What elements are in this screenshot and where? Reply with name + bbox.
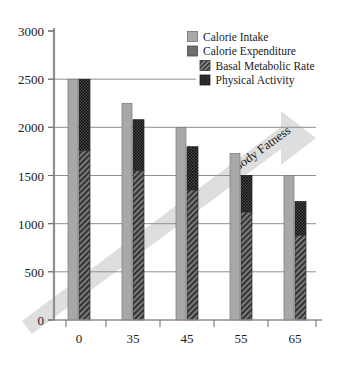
bar-physical-activity[interactable] (241, 176, 252, 213)
bar-basal-metabolic-rate[interactable] (241, 212, 252, 320)
legend-label: Calorie Intake (203, 31, 268, 43)
y-tick-label: 2500 (18, 72, 44, 87)
legend-swatch-basal-metabolic-rate-icon (200, 61, 210, 71)
bar-physical-activity[interactable] (133, 120, 144, 171)
bar-physical-activity[interactable] (79, 79, 90, 151)
y-tick-label: 1000 (18, 217, 44, 232)
y-tick-label: 0 (38, 313, 45, 328)
bar-calorie-intake[interactable] (68, 79, 78, 320)
x-tick-label: 35 (127, 331, 140, 346)
bar-chart-figure: Body Fatness (0, 0, 344, 366)
legend-label: Physical Activity (216, 74, 295, 87)
bar-basal-metabolic-rate[interactable] (187, 190, 198, 320)
y-tick-label: 3000 (18, 24, 44, 39)
y-tick-label: 500 (25, 265, 45, 280)
legend-swatch-physical-activity-icon (200, 75, 210, 85)
bar-group-35 (122, 103, 144, 320)
x-tick-label: 65 (289, 331, 302, 346)
x-tick-label: 45 (181, 331, 194, 346)
bar-basal-metabolic-rate[interactable] (79, 151, 90, 320)
bar-basal-metabolic-rate[interactable] (295, 235, 306, 320)
bar-calorie-intake[interactable] (176, 127, 186, 320)
y-tick-label: 1500 (18, 169, 44, 184)
y-tick-label: 2000 (18, 120, 44, 135)
legend-label: Calorie Expenditure (203, 45, 296, 58)
x-tick-label: 0 (76, 331, 83, 346)
bar-physical-activity[interactable] (187, 147, 198, 190)
bar-physical-activity[interactable] (295, 202, 306, 236)
legend-item-calorie-expenditure[interactable]: Calorie Expenditure (188, 45, 296, 58)
bar-basal-metabolic-rate[interactable] (133, 171, 144, 320)
bar-group-0 (68, 79, 90, 320)
bar-calorie-intake[interactable] (122, 103, 132, 320)
x-tick-label: 55 (235, 331, 248, 346)
bar-group-45 (176, 127, 198, 320)
bar-group-55 (230, 153, 252, 320)
legend-label: Basal Metabolic Rate (216, 60, 315, 72)
bar-calorie-intake[interactable] (230, 153, 240, 320)
bar-calorie-intake[interactable] (284, 176, 294, 321)
chart-container: Body Fatness (0, 0, 344, 366)
legend-swatch-calorie-expenditure-icon (188, 46, 198, 56)
legend-swatch-calorie-intake-icon (188, 32, 198, 42)
legend-item-basal-metabolic-rate[interactable]: Basal Metabolic Rate (200, 60, 315, 72)
